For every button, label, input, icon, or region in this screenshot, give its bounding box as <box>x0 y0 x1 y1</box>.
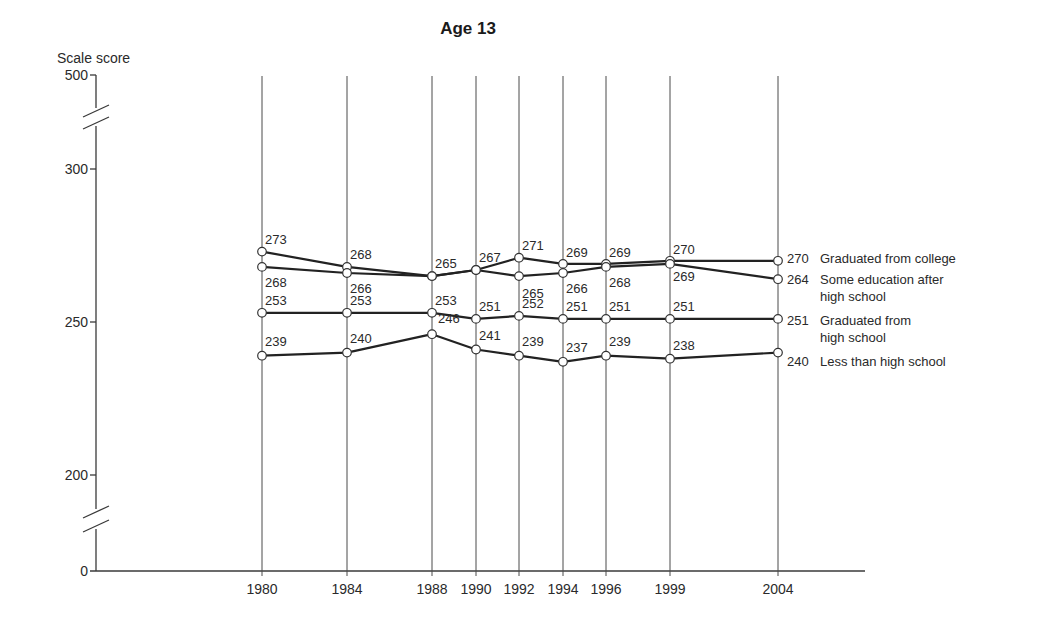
y-tick-label: 500 <box>65 67 89 83</box>
data-point <box>559 358 568 367</box>
data-value-label: 239 <box>522 334 544 349</box>
legend-series-name: high school <box>820 289 886 304</box>
data-point <box>343 348 352 357</box>
legend-series-name: high school <box>820 330 886 345</box>
data-point <box>343 309 352 318</box>
data-value-label: 265 <box>435 256 457 271</box>
data-value-label: 251 <box>609 299 631 314</box>
legend-value: 240 <box>787 354 809 369</box>
x-tick-label: 1999 <box>654 581 685 597</box>
line-chart: Age 13 Scale score0200250300500 19801984… <box>0 0 1040 629</box>
legend-series-name: Graduated from <box>820 313 911 328</box>
data-point <box>472 315 481 324</box>
data-value-label: 269 <box>566 245 588 260</box>
legend-label-0: 270Graduated from college <box>787 251 956 266</box>
data-point <box>515 253 524 262</box>
legend-label-1: 264Some education afterhigh school <box>787 272 944 304</box>
data-point <box>515 312 524 321</box>
data-point <box>666 315 675 324</box>
data-value-label: 253 <box>265 293 287 308</box>
data-value-label: 273 <box>265 232 287 247</box>
chart-title: Age 13 <box>440 19 496 38</box>
data-point <box>258 247 267 256</box>
data-value-label: 268 <box>350 247 372 262</box>
data-value-label: 271 <box>522 238 544 253</box>
y-axis-title: Scale score <box>57 50 130 66</box>
data-value-labels: 2732682652672712692692702682662652662682… <box>265 232 695 355</box>
x-tick-label: 1990 <box>460 581 491 597</box>
data-point <box>515 272 524 281</box>
data-value-label: 246 <box>438 311 460 326</box>
data-value-label: 266 <box>566 281 588 296</box>
data-point <box>774 275 783 284</box>
data-point <box>428 272 437 281</box>
legend-series-name: Less than high school <box>820 354 946 369</box>
data-value-label: 251 <box>566 299 588 314</box>
x-tick-label: 1996 <box>590 581 621 597</box>
x-tick-label: 1994 <box>547 581 578 597</box>
series-legend-labels: 270Graduated from college264Some educati… <box>787 251 956 369</box>
data-value-label: 240 <box>350 331 372 346</box>
data-point <box>559 315 568 324</box>
legend-series-name: Graduated from college <box>820 251 956 266</box>
series-lines <box>262 252 778 362</box>
y-tick-label: 300 <box>65 161 89 177</box>
data-value-label: 268 <box>265 275 287 290</box>
x-tick-label: 1980 <box>246 581 277 597</box>
y-tick-label: 200 <box>65 467 89 483</box>
year-gridlines: 198019841988199019921994199619992004 <box>246 76 793 597</box>
data-value-label: 237 <box>566 340 588 355</box>
data-point <box>602 351 611 360</box>
data-value-label: 251 <box>673 299 695 314</box>
data-point <box>343 269 352 278</box>
data-point <box>774 348 783 357</box>
x-tick-label: 1988 <box>416 581 447 597</box>
data-point <box>428 309 437 318</box>
legend-series-name: Some education after <box>820 272 944 287</box>
data-point <box>515 351 524 360</box>
data-value-label: 267 <box>479 250 501 265</box>
data-value-label: 269 <box>673 269 695 284</box>
data-point <box>774 315 783 324</box>
legend-label-3: 240Less than high school <box>787 354 946 369</box>
y-tick-label: 0 <box>80 563 88 579</box>
data-point <box>258 263 267 272</box>
legend-label-2: 251Graduated fromhigh school <box>787 313 911 345</box>
legend-value: 264 <box>787 272 809 287</box>
data-point <box>428 330 437 339</box>
data-point <box>472 345 481 354</box>
data-value-label: 253 <box>350 293 372 308</box>
data-point <box>559 260 568 269</box>
data-value-label: 251 <box>479 299 501 314</box>
data-point <box>602 263 611 272</box>
x-tick-label: 2004 <box>762 581 793 597</box>
data-value-label: 238 <box>673 338 695 353</box>
x-tick-label: 1992 <box>503 581 534 597</box>
data-value-label: 269 <box>609 245 631 260</box>
legend-value: 270 <box>787 251 809 266</box>
data-point <box>258 351 267 360</box>
chart-title-group: Age 13 <box>440 19 496 38</box>
data-value-label: 252 <box>522 296 544 311</box>
data-point <box>666 354 675 363</box>
data-point <box>472 266 481 275</box>
data-point <box>774 257 783 266</box>
data-value-label: 241 <box>479 328 501 343</box>
data-value-label: 268 <box>609 275 631 290</box>
y-tick-label: 250 <box>65 314 89 330</box>
x-tick-label: 1984 <box>331 581 362 597</box>
data-point <box>258 309 267 318</box>
data-point <box>559 269 568 278</box>
data-value-label: 270 <box>673 242 695 257</box>
data-point <box>666 260 675 269</box>
axes: Scale score0200250300500 <box>57 50 865 579</box>
data-value-label: 253 <box>435 293 457 308</box>
legend-value: 251 <box>787 313 809 328</box>
data-point <box>602 315 611 324</box>
data-value-label: 239 <box>265 334 287 349</box>
data-value-label: 239 <box>609 334 631 349</box>
